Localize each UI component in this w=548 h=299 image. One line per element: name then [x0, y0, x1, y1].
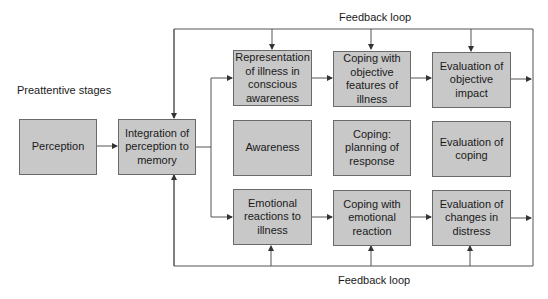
box-evaluation-distress: Evaluation of changes in distress: [432, 190, 511, 246]
box-text: Evaluation of coping: [435, 136, 508, 163]
box-text: Emotional reactions to illness: [236, 197, 309, 238]
box-evaluation-objective: Evaluation of objective impact: [432, 52, 511, 108]
box-text: Evaluation of changes in distress: [435, 198, 508, 239]
box-awareness: Awareness: [233, 120, 312, 176]
box-text: Coping with objective features of illnes…: [336, 52, 408, 106]
box-integration: Integration of perception to memory: [118, 119, 196, 175]
box-text: Coping with emotional reaction: [336, 198, 408, 239]
box-perception: Perception: [19, 119, 97, 175]
box-text: Evaluation of objective impact: [435, 60, 508, 101]
box-text: Coping: planning of response: [336, 128, 408, 169]
box-emotional-reactions: Emotional reactions to illness: [233, 189, 312, 245]
box-coping-emotional: Coping with emotional reaction: [333, 190, 411, 246]
box-text: Representation of illness in conscious a…: [235, 51, 310, 105]
feedback-loop-top-label: Feedback loop: [339, 11, 411, 23]
box-text: Integration of perception to memory: [121, 127, 193, 168]
preattentive-stages-label: Preattentive stages: [17, 84, 111, 96]
box-text: Perception: [32, 140, 85, 154]
feedback-loop-bottom-label: Feedback loop: [338, 274, 410, 286]
box-coping-planning: Coping: planning of response: [333, 120, 411, 176]
box-coping-objective: Coping with objective features of illnes…: [333, 51, 411, 107]
box-evaluation-coping: Evaluation of coping: [432, 121, 511, 177]
box-representation: Representation of illness in conscious a…: [233, 50, 312, 106]
box-text: Awareness: [245, 141, 299, 155]
